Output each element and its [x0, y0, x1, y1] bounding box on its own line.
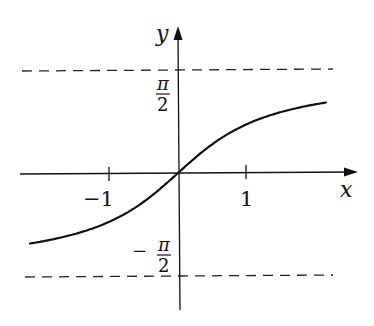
- y-axis-arrow-icon: [174, 26, 183, 40]
- tick-label-neg1: −1: [83, 187, 114, 211]
- y-axis-label: y: [155, 21, 169, 46]
- x-axis-label: x: [340, 177, 353, 202]
- neg-pi-half-denominator: 2: [158, 255, 169, 276]
- pi-half-denominator: 2: [157, 94, 168, 115]
- pi-half-numerator: π: [156, 73, 170, 94]
- tick-label-pos1: 1: [240, 187, 253, 211]
- x-axis: [20, 172, 352, 174]
- lower-asymptote: [25, 275, 333, 277]
- arctan-chart: y x −1 1 π 2 − π 2: [0, 0, 374, 326]
- neg-pi-half-sign: −: [132, 240, 147, 261]
- x-axis-arrow-icon: [344, 168, 358, 177]
- upper-asymptote: [22, 69, 333, 71]
- chart-canvas: y x −1 1 π 2 − π 2: [0, 0, 374, 326]
- neg-pi-half-numerator: π: [157, 234, 171, 255]
